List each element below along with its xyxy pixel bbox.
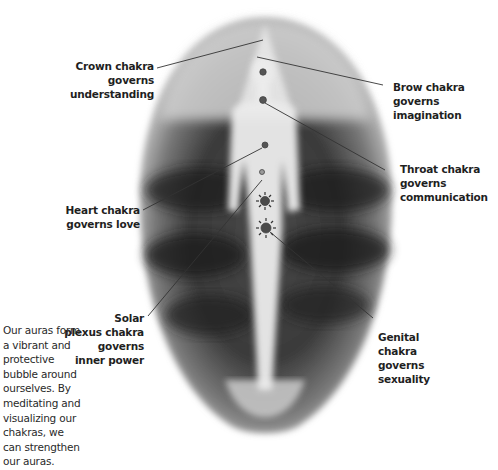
brow-chakra-label: Brow chakra governs imagination — [393, 80, 493, 122]
crown-chakra-icon — [260, 69, 266, 75]
caption-line: chakras, we — [3, 425, 98, 440]
label-line: governs — [378, 358, 478, 372]
caption-line: can strengthen — [3, 440, 98, 455]
caption-line: visualizing our — [3, 411, 98, 426]
heart-chakra-icon — [262, 142, 268, 148]
solar-plexus-chakra-icon — [260, 170, 265, 175]
label-line: Brow chakra — [393, 80, 493, 94]
label-line: governs — [393, 94, 493, 108]
chakra-diagram: Crown chakra governs understanding Brow … — [0, 0, 498, 470]
caption-line: bubble around — [3, 367, 98, 382]
caption-line: our auras. — [3, 454, 98, 469]
caption-line: ourselves. By — [3, 381, 98, 396]
heart-chakra-label: Heart chakra governs love — [50, 203, 140, 231]
label-line: chakra — [378, 344, 478, 358]
label-line: understanding — [60, 87, 154, 101]
genital-chakra-label: Genital chakra governs sexuality — [378, 330, 478, 386]
throat-chakra-label: Throat chakra governs communication — [400, 162, 498, 204]
label-line: communication — [400, 190, 498, 204]
label-line: Heart chakra — [50, 203, 140, 217]
label-line: Crown chakra — [60, 59, 154, 73]
label-line: imagination — [393, 108, 493, 122]
caption-line: meditating and — [3, 396, 98, 411]
caption-text: Our auras form a vibrant and protective … — [3, 323, 98, 469]
label-line: governs — [400, 176, 498, 190]
caption-line: protective — [3, 352, 98, 367]
caption-line: a vibrant and — [3, 338, 98, 353]
label-line: governs — [60, 73, 154, 87]
caption-line: Our auras form — [3, 323, 98, 338]
label-line: Throat chakra — [400, 162, 498, 176]
label-line: governs love — [50, 217, 140, 231]
label-line: Genital — [378, 330, 478, 344]
crown-chakra-label: Crown chakra governs understanding — [60, 59, 154, 101]
throat-chakra-icon — [260, 97, 267, 104]
label-line: sexuality — [378, 372, 478, 386]
